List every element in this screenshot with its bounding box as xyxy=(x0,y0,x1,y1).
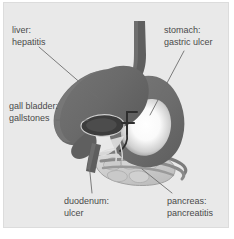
label-stomach: stomach: gastric ulcer xyxy=(164,25,213,48)
label-liver-condition: hepatitis xyxy=(12,37,46,49)
label-gallbladder: gall bladder: gallstones xyxy=(9,101,58,124)
label-stomach-condition: gastric ulcer xyxy=(164,37,213,49)
label-duodenum: duodenum: ulcer xyxy=(64,196,109,219)
label-duodenum-condition: ulcer xyxy=(64,208,109,220)
label-gallbladder-condition: gallstones xyxy=(9,113,58,125)
label-liver: liver: hepatitis xyxy=(12,25,46,48)
label-stomach-term: stomach: xyxy=(164,25,213,37)
label-pancreas-condition: pancreatitis xyxy=(167,208,213,220)
label-pancreas-term: pancreas: xyxy=(167,196,213,208)
label-liver-term: liver: xyxy=(12,25,46,37)
anatomy-figure-panel: liver: hepatitis gall bladder: gallstone… xyxy=(3,2,229,228)
label-duodenum-term: duodenum: xyxy=(64,196,109,208)
label-gallbladder-term: gall bladder: xyxy=(9,101,58,113)
label-pancreas: pancreas: pancreatitis xyxy=(167,196,213,219)
